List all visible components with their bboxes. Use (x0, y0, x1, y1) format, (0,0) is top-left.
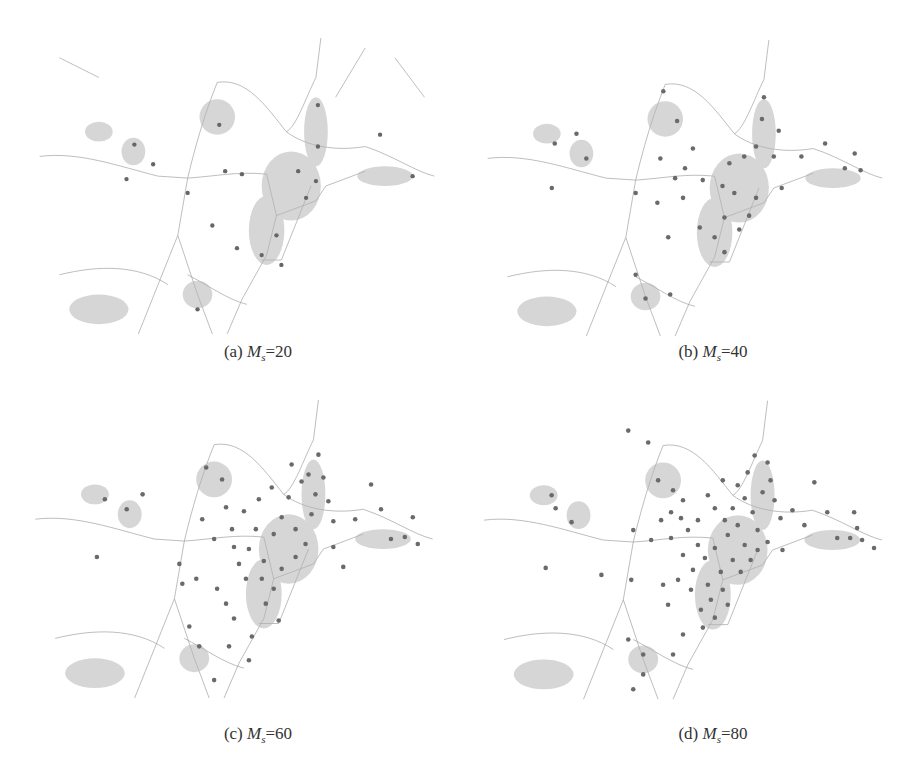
caption-symbol: M (247, 342, 261, 361)
caption-value: 40 (731, 342, 748, 361)
caption-subscript: s (261, 733, 265, 745)
caption-d: (d) Ms=80 (678, 724, 747, 745)
caption-a: (a) Ms=20 (224, 342, 292, 363)
caption-symbol: M (247, 724, 261, 743)
panel-d: (d) Ms=80 (456, 386, 913, 773)
map-graphic (35, 400, 433, 698)
road-network-map-a (38, 38, 436, 334)
caption-subscript: s (261, 351, 265, 363)
caption-subscript: s (717, 351, 721, 363)
map-graphic (486, 40, 884, 336)
map-graphic (38, 38, 436, 334)
road-network-map-d (484, 400, 882, 700)
caption-b: (b) Ms=40 (678, 342, 747, 363)
caption-symbol: M (703, 724, 717, 743)
panel-a: (a) Ms=20 (0, 0, 456, 386)
caption-label: (b) (678, 342, 698, 361)
panel-c: (c) Ms=60 (0, 386, 456, 773)
road-network-map-b (486, 40, 884, 336)
caption-label: (c) (224, 724, 243, 743)
caption-symbol: M (703, 342, 717, 361)
map-graphic (484, 400, 882, 700)
caption-subscript: s (717, 733, 721, 745)
caption-label: (d) (678, 724, 698, 743)
caption-value: 60 (275, 724, 292, 743)
caption-value: 80 (731, 724, 748, 743)
caption-c: (c) Ms=60 (224, 724, 292, 745)
caption-value: 20 (275, 342, 292, 361)
road-network-map-c (35, 400, 433, 698)
caption-label: (a) (224, 342, 243, 361)
panel-b: (b) Ms=40 (456, 0, 913, 386)
